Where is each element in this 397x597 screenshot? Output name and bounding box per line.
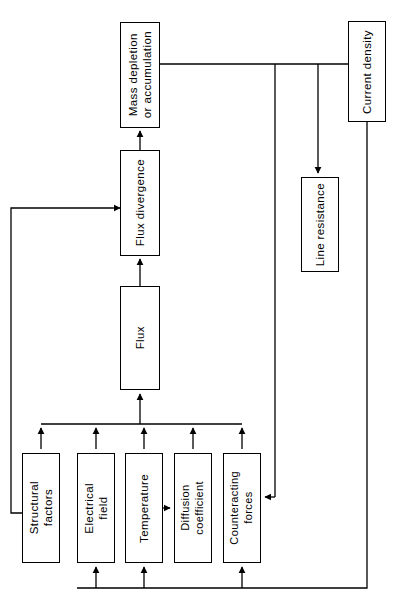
node-electrical-field-label: Electrical field	[82, 483, 111, 534]
node-flux-divergence[interactable]: Flux divergence	[120, 150, 160, 256]
node-temperature-label: Temperature	[137, 474, 151, 543]
node-electrical-field[interactable]: Electrical field	[77, 453, 115, 563]
node-diffusion-coefficient-label: Diffusion coefficient	[179, 481, 207, 535]
flow-diagram: Mass depletion or accumulation Flux dive…	[0, 0, 397, 597]
node-flux-divergence-label: Flux divergence	[133, 159, 147, 246]
node-counteracting-forces[interactable]: Counteracting forces	[223, 453, 261, 563]
node-structural-factors[interactable]: Structural factors	[22, 453, 60, 563]
node-current-density[interactable]: Current density	[348, 21, 386, 122]
node-counteracting-forces-label: Counteracting forces	[228, 471, 256, 545]
node-mass-depletion[interactable]: Mass depletion or accumulation	[120, 22, 160, 128]
node-structural-factors-label: Structural factors	[27, 481, 56, 534]
node-line-resistance-label: Line resistance	[313, 183, 327, 266]
node-temperature[interactable]: Temperature	[125, 453, 163, 563]
node-flux[interactable]: Flux	[120, 286, 160, 390]
node-mass-depletion-label: Mass depletion or accumulation	[126, 31, 155, 118]
node-diffusion-coefficient[interactable]: Diffusion coefficient	[174, 453, 212, 563]
node-current-density-label: Current density	[360, 30, 374, 114]
node-flux-label: Flux	[133, 326, 147, 349]
node-line-resistance[interactable]: Line resistance	[301, 177, 339, 272]
